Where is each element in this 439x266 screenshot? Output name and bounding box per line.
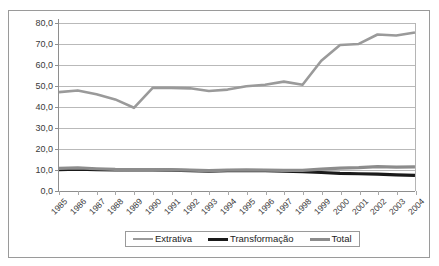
x-axis-labels: 1985198619871988198919901991199219931994…	[59, 197, 415, 231]
x-tick-label: 1997	[275, 197, 294, 216]
plot-area: 0,010,020,030,040,050,060,070,080,0 1985…	[59, 23, 416, 191]
y-tick-label: 50,0	[35, 82, 53, 91]
y-tick-label: 60,0	[35, 61, 53, 70]
y-tick-label: 40,0	[35, 103, 53, 112]
x-tick-label: 2002	[369, 197, 388, 216]
x-tick-label: 2000	[331, 197, 350, 216]
x-tick-mark	[247, 191, 248, 195]
x-tick-mark	[341, 191, 342, 195]
legend-swatch	[133, 238, 153, 240]
x-tick-mark	[378, 191, 379, 195]
y-tick-label: 10,0	[35, 166, 53, 175]
x-tick-mark	[115, 191, 116, 195]
legend-label: Total	[332, 234, 352, 244]
x-tick-mark	[416, 191, 417, 195]
x-tick-mark	[322, 191, 323, 195]
x-tick-mark	[153, 191, 154, 195]
x-tick-label: 2003	[388, 197, 407, 216]
x-tick-label: 2001	[350, 197, 369, 216]
y-tick-label: 80,0	[35, 19, 53, 28]
legend-label: Extrativa	[155, 234, 192, 244]
x-tick-label: 1994	[219, 197, 238, 216]
x-tick-mark	[284, 191, 285, 195]
x-tick-mark	[172, 191, 173, 195]
x-tick-mark	[303, 191, 304, 195]
x-tick-label: 1990	[144, 197, 163, 216]
series-line	[59, 167, 415, 171]
x-tick-label: 1989	[125, 197, 144, 216]
chart-figure: 0,010,020,030,040,050,060,070,080,0 1985…	[8, 10, 430, 258]
y-tick-label: 70,0	[35, 40, 53, 49]
plot-wrapper: 0,010,020,030,040,050,060,070,080,0 1985…	[59, 23, 416, 191]
x-tick-label: 1987	[87, 197, 106, 216]
x-tick-mark	[397, 191, 398, 195]
legend-swatch	[310, 238, 330, 241]
x-axis-ticks	[59, 191, 415, 195]
series-lines	[59, 23, 415, 191]
y-tick-label: 20,0	[35, 145, 53, 154]
x-tick-mark	[209, 191, 210, 195]
x-tick-label: 1993	[200, 197, 219, 216]
legend-swatch	[208, 238, 228, 241]
series-line	[59, 32, 415, 107]
legend-entry[interactable]: Total	[310, 234, 352, 244]
x-tick-mark	[78, 191, 79, 195]
x-tick-label: 1988	[106, 197, 125, 216]
x-tick-mark	[191, 191, 192, 195]
legend-label: Transformação	[230, 234, 294, 244]
x-tick-mark	[97, 191, 98, 195]
legend-entry[interactable]: Transformação	[208, 234, 294, 244]
x-tick-label: 2004	[407, 197, 426, 216]
y-tick-label: 30,0	[35, 124, 53, 133]
x-tick-mark	[228, 191, 229, 195]
x-tick-label: 1995	[238, 197, 257, 216]
x-tick-label: 1996	[256, 197, 275, 216]
x-tick-mark	[134, 191, 135, 195]
x-tick-label: 1999	[313, 197, 332, 216]
legend-entry[interactable]: Extrativa	[133, 234, 192, 244]
x-tick-label: 1991	[162, 197, 181, 216]
x-tick-label: 1992	[181, 197, 200, 216]
x-tick-label: 1986	[68, 197, 87, 216]
chart-legend: ExtrativaTransformaçãoTotal	[125, 231, 360, 247]
x-tick-mark	[59, 191, 60, 195]
x-tick-mark	[266, 191, 267, 195]
x-tick-mark	[360, 191, 361, 195]
y-tick-label: 0,0	[40, 187, 53, 196]
x-tick-label: 1998	[294, 197, 313, 216]
x-tick-label: 1985	[50, 197, 69, 216]
